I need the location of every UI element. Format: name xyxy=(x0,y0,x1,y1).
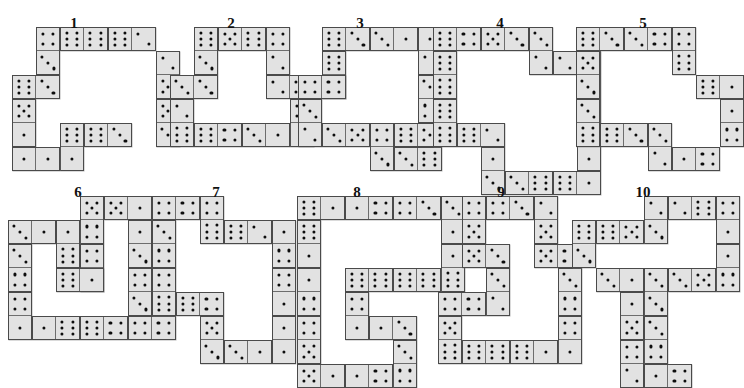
domino-tile[interactable] xyxy=(624,27,672,51)
domino-tile[interactable] xyxy=(462,340,510,364)
domino-tile[interactable] xyxy=(596,220,644,244)
domino-tile[interactable] xyxy=(433,27,481,51)
pip-dot xyxy=(337,81,340,84)
domino-tile[interactable] xyxy=(462,244,510,268)
domino-tile[interactable] xyxy=(242,123,290,147)
domino-tile[interactable] xyxy=(481,27,529,51)
domino-tile[interactable] xyxy=(272,220,296,268)
domino-tile[interactable] xyxy=(8,292,32,340)
domino-tile[interactable] xyxy=(272,316,296,364)
domino-tile[interactable] xyxy=(60,27,108,51)
domino-tile[interactable] xyxy=(457,123,505,147)
domino-tile[interactable] xyxy=(80,316,128,340)
domino-tile[interactable] xyxy=(200,316,224,364)
domino-tile[interactable] xyxy=(128,220,152,268)
domino-tile[interactable] xyxy=(297,220,321,268)
domino-tile[interactable] xyxy=(224,220,272,244)
domino-tile[interactable] xyxy=(12,147,60,171)
domino-tile[interactable] xyxy=(433,99,457,147)
domino-tile[interactable] xyxy=(716,244,740,292)
domino-tile[interactable] xyxy=(393,340,417,388)
domino-tile[interactable] xyxy=(152,220,176,268)
domino-tile[interactable] xyxy=(576,99,600,147)
domino-tile[interactable] xyxy=(510,340,558,364)
domino-tile[interactable] xyxy=(345,292,369,340)
domino-tile[interactable] xyxy=(370,27,418,51)
domino-tile[interactable] xyxy=(486,196,534,220)
domino-tile[interactable] xyxy=(648,123,672,171)
domino-tile[interactable] xyxy=(620,292,644,340)
domino-tile[interactable] xyxy=(200,196,224,244)
domino-tile[interactable] xyxy=(576,27,624,51)
domino-tile[interactable] xyxy=(369,316,417,340)
domino-tile[interactable] xyxy=(298,99,322,147)
domino-tile[interactable] xyxy=(558,268,582,316)
domino-tile[interactable] xyxy=(272,268,296,316)
domino-tile[interactable] xyxy=(84,123,132,147)
domino-tile[interactable] xyxy=(8,244,32,292)
domino-tile[interactable] xyxy=(176,292,224,316)
domino-tile[interactable] xyxy=(720,99,744,147)
domino-tile[interactable] xyxy=(224,340,272,364)
domino-tile[interactable] xyxy=(152,268,176,316)
domino-tile[interactable] xyxy=(298,75,346,99)
domino-tile[interactable] xyxy=(462,196,486,244)
domino-tile[interactable] xyxy=(12,75,60,99)
domino-tile[interactable] xyxy=(297,316,321,364)
domino-tile[interactable] xyxy=(170,75,218,99)
domino-tile[interactable] xyxy=(152,196,200,220)
domino-tile[interactable] xyxy=(600,123,648,147)
domino-tile[interactable] xyxy=(128,268,152,316)
domino-tile[interactable] xyxy=(56,220,80,268)
domino-tile[interactable] xyxy=(668,196,716,220)
domino-tile[interactable] xyxy=(576,51,600,99)
domino-tile[interactable] xyxy=(218,27,266,51)
domino-tile[interactable] xyxy=(345,196,393,220)
domino-tile[interactable] xyxy=(128,316,176,340)
domino-tile[interactable] xyxy=(108,27,156,51)
domino-tile[interactable] xyxy=(505,171,553,195)
domino-tile[interactable] xyxy=(433,51,457,99)
domino-tile[interactable] xyxy=(529,27,553,75)
domino-tile[interactable] xyxy=(620,340,644,388)
domino-tile[interactable] xyxy=(668,268,716,292)
domino-tile[interactable] xyxy=(696,75,744,99)
domino-tile[interactable] xyxy=(345,268,393,292)
domino-tile[interactable] xyxy=(558,316,582,364)
domino-tile[interactable] xyxy=(12,99,36,147)
domino-tile[interactable] xyxy=(393,268,441,292)
domino-tile[interactable] xyxy=(322,123,370,147)
domino-tile[interactable] xyxy=(370,123,394,171)
domino-tile[interactable] xyxy=(393,196,441,220)
domino-tile[interactable] xyxy=(60,123,84,171)
domino-tile[interactable] xyxy=(572,220,596,268)
domino-tile[interactable] xyxy=(553,171,601,195)
domino-tile[interactable] xyxy=(644,268,668,316)
domino-tile[interactable] xyxy=(644,196,668,244)
domino-tile[interactable] xyxy=(672,147,720,171)
domino-tile[interactable] xyxy=(394,147,442,171)
domino-tile[interactable] xyxy=(534,196,558,244)
domino-tile[interactable] xyxy=(170,99,194,147)
domino-tile[interactable] xyxy=(56,268,104,292)
domino-tile[interactable] xyxy=(8,220,56,244)
domino-tile[interactable] xyxy=(672,27,696,75)
domino-tile[interactable] xyxy=(266,27,290,75)
domino-tile[interactable] xyxy=(194,27,218,75)
domino-tile[interactable] xyxy=(596,268,644,292)
domino-tile[interactable] xyxy=(80,196,104,244)
domino-tile[interactable] xyxy=(644,316,668,364)
domino-tile[interactable] xyxy=(194,123,242,147)
domino-tile[interactable] xyxy=(716,196,740,244)
domino-tile[interactable] xyxy=(297,268,321,316)
domino-tile[interactable] xyxy=(486,268,510,316)
domino-tile[interactable] xyxy=(104,196,152,220)
domino-tile[interactable] xyxy=(438,316,462,364)
domino-tile[interactable] xyxy=(36,27,60,75)
domino-tile[interactable] xyxy=(297,364,345,388)
domino-tile[interactable] xyxy=(644,364,692,388)
domino-tile[interactable] xyxy=(438,292,486,316)
domino-tile[interactable] xyxy=(297,196,345,220)
domino-tile[interactable] xyxy=(32,316,80,340)
domino-tile[interactable] xyxy=(345,364,393,388)
